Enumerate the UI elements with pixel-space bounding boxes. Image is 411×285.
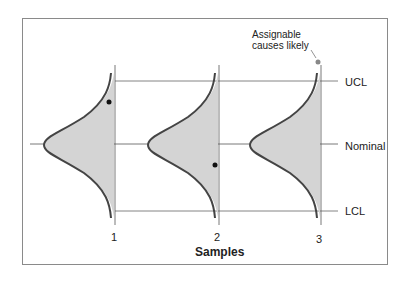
x-tick-3: 3 xyxy=(316,233,322,245)
x-tick-1: 1 xyxy=(111,231,117,243)
sample-point-1 xyxy=(107,100,112,105)
sample-point-2 xyxy=(213,163,218,168)
x-axis-label: Samples xyxy=(195,245,244,259)
distribution-3 xyxy=(250,73,320,218)
lcl-label: LCL xyxy=(345,205,365,217)
annotation-leader xyxy=(311,50,316,58)
nominal-label: Nominal xyxy=(345,140,385,152)
ucl-label: UCL xyxy=(345,76,367,88)
x-tick-2: 2 xyxy=(214,231,220,243)
sample-point-3 xyxy=(316,60,321,65)
distribution-1 xyxy=(44,73,114,218)
distribution-2 xyxy=(148,73,218,218)
annotation-label: Assignable causes likely xyxy=(252,29,309,51)
